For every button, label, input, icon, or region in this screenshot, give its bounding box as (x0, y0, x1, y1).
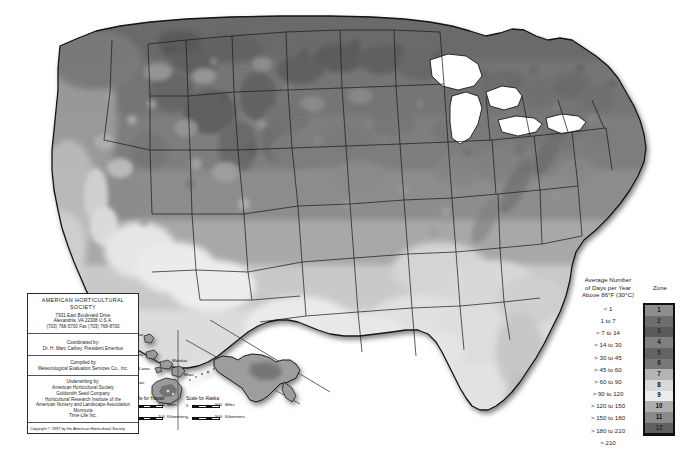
legend-swatch-zone-7: 7 (645, 369, 672, 380)
legend-swatch-zone-3: 3 (645, 327, 672, 338)
legend-zone-number-6: 6 (657, 359, 661, 366)
hawaii-scale-km-value: 100 (158, 414, 165, 419)
map-legend: Average Number of Days per Year Above 86… (576, 276, 688, 449)
legend-range-label-11: > 180 to 210 (576, 425, 640, 437)
alaska-scale-title: Scale for Alaska (186, 396, 219, 401)
hawaii-scale-miles-unit: Miles (167, 402, 177, 407)
legend-swatch-column: 123456789101112 (643, 303, 675, 436)
legend-swatch-zone-8: 8 (645, 380, 672, 391)
legend-swatch-zone-4: 4 (645, 337, 672, 348)
copyright-notice: Copyright © 1997 by the American Horticu… (28, 423, 138, 433)
legend-body: < 11 to 7> 7 to 14> 14 to 30> 30 to 45> … (576, 303, 688, 449)
alaska-scale-miles-unit: Miles (225, 402, 235, 407)
legend-range-label-10: > 150 to 180 (576, 412, 640, 424)
legend-zone-number-2: 2 (657, 317, 661, 324)
inset-label-lanai: Lanai (139, 366, 150, 371)
coordinated-by-label: Coordinated by: (31, 340, 135, 346)
legend-range-label-3: > 7 to 14 (576, 327, 640, 339)
legend-range-labels: < 11 to 7> 7 to 14> 14 to 30> 30 to 45> … (576, 303, 640, 449)
underwriter-6: Time-Life Inc. (31, 413, 135, 419)
legend-range-label-8: > 90 to 120 (576, 388, 640, 400)
legend-zone-number-9: 9 (657, 391, 661, 398)
compiled-by-name: Meteorological Evaluation Services Co., … (31, 366, 135, 372)
legend-swatch-zone-10: 10 (645, 401, 672, 412)
legend-swatch-zone-9: 9 (645, 391, 672, 402)
alaska-scale-zero-km: 0 (186, 415, 188, 420)
legend-heading: Average Number of Days per Year Above 86… (576, 276, 640, 299)
underwriter-4: American Nursery and Landscape Associati… (31, 402, 135, 408)
legend-swatch-zone-12: 12 (645, 423, 672, 434)
legend-heading-line-3: Above 86°F (30°C) (576, 291, 640, 299)
hawaii-scale-miles-value: 100 (158, 402, 165, 407)
legend-range-label-5: > 30 to 45 (576, 352, 640, 364)
alaska-scale-km-value: 500 (215, 414, 222, 419)
legend-range-label-9: > 120 to 150 (576, 400, 640, 412)
legend-swatch-zone-5: 5 (645, 348, 672, 359)
info-section-underwriting: Underwriting by: American Horticultural … (28, 376, 138, 424)
legend-range-label-12: > 210 (576, 437, 640, 449)
info-section-coordinated: Coordinated by: Dr. H. Marc Cathey, Pres… (28, 334, 138, 357)
legend-zone-number-7: 7 (657, 370, 661, 377)
legend-swatch-zone-11: 11 (645, 412, 672, 423)
legend-heading-line-2: of Days per Year (576, 284, 640, 292)
legend-range-label-4: > 14 to 30 (576, 339, 640, 351)
legend-range-label-7: > 60 to 90 (576, 376, 640, 388)
alaska-scale-zero-miles: 0 (186, 403, 188, 408)
organization-name: AMERICAN HORTICULTURAL SOCIETY (31, 297, 135, 311)
hawaii-scale-km-unit: Kilometers (167, 414, 187, 419)
legend-zone-number-11: 11 (656, 413, 663, 420)
legend-zone-number-12: 12 (655, 424, 662, 431)
coordinated-by-name: Dr. H. Marc Cathey, President Emeritus (31, 346, 135, 352)
info-section-compiled: Compiled by Meteorological Evaluation Se… (28, 356, 138, 376)
legend-swatch-zone-1: 1 (645, 305, 672, 316)
legend-range-label-2: 1 to 7 (576, 315, 640, 327)
legend-zone-number-10: 10 (655, 402, 662, 409)
inset-label-maui: Maui (184, 372, 194, 377)
address-line-3: (703) 768-5700 Fax (703) 768-8700 (31, 324, 135, 330)
legend-range-label-6: > 45 to 60 (576, 364, 640, 376)
legend-zone-heading: Zone (642, 284, 678, 291)
legend-range-label-1: < 1 (576, 303, 640, 315)
credits-info-box: AMERICAN HORTICULTURAL SOCIETY 7931 East… (27, 293, 139, 434)
underwriting-label: Underwriting by: (31, 379, 135, 385)
legend-zone-number-3: 3 (657, 327, 661, 334)
legend-zone-number-8: 8 (657, 381, 661, 388)
legend-zone-number-4: 4 (657, 338, 661, 345)
legend-zone-number-1: 1 (657, 306, 661, 313)
heat-zone-map-page: Kauai Oahu Molokai Lanai Maui Hawaii Sca… (0, 0, 694, 449)
legend-swatch-zone-2: 2 (645, 316, 672, 327)
alaska-scale-km-unit: Kilometers (225, 414, 245, 419)
compiled-by-label: Compiled by (31, 360, 135, 366)
legend-heading-line-1: Average Number (576, 276, 640, 284)
legend-zone-number-5: 5 (657, 349, 661, 356)
info-section-organization: AMERICAN HORTICULTURAL SOCIETY 7931 East… (28, 294, 138, 334)
alaska-scale-miles-value: 500 (215, 402, 222, 407)
inset-label-molokai: Molokai (172, 358, 187, 363)
legend-swatch-zone-6: 6 (645, 359, 672, 370)
